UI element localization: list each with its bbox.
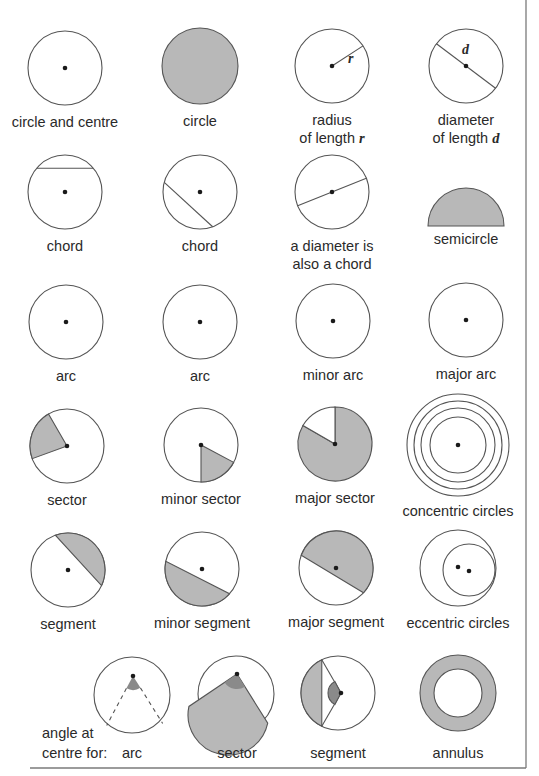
figure-major-sector: major sector bbox=[295, 407, 375, 506]
figure-label: concentric circles bbox=[402, 503, 513, 519]
figure-concentric-circles: concentric circles bbox=[402, 394, 513, 519]
segment-shape bbox=[301, 660, 322, 727]
centre-point bbox=[63, 66, 68, 71]
centre-point bbox=[456, 443, 461, 448]
centre-point bbox=[66, 568, 71, 573]
sector-shape bbox=[188, 674, 268, 755]
figure-label: of length r bbox=[299, 130, 365, 146]
figure-label: minor segment bbox=[154, 615, 250, 631]
figure-label: circle and centre bbox=[12, 114, 118, 130]
centre-point bbox=[330, 190, 335, 195]
figure-label: segment bbox=[310, 745, 366, 761]
figure-label: eccentric circles bbox=[406, 615, 509, 631]
centre-point bbox=[65, 444, 70, 449]
centre-point bbox=[235, 672, 240, 677]
figure-minor-segment: minor segment bbox=[154, 532, 250, 631]
diameter-symbol: d bbox=[462, 42, 470, 57]
figure-label: sector bbox=[47, 492, 87, 508]
figure-label: arc bbox=[190, 368, 210, 384]
figure-arc-2: arc bbox=[163, 285, 237, 384]
filled-circle bbox=[162, 28, 238, 104]
figure-annulus: annulus bbox=[420, 655, 496, 761]
label-symbol: r bbox=[359, 130, 365, 146]
centre-point bbox=[333, 442, 338, 447]
centre-point bbox=[330, 64, 335, 69]
figure-chord-1: chord bbox=[28, 155, 102, 254]
figure-angle-segment: segment bbox=[301, 656, 375, 761]
figure-label: radius bbox=[312, 112, 352, 128]
side-caption-line: angle at bbox=[42, 725, 94, 741]
figure-label: major sector bbox=[295, 490, 375, 506]
outer-centre-point bbox=[456, 565, 461, 570]
figure-major-arc: major arc bbox=[429, 283, 503, 382]
figure-label: annulus bbox=[433, 745, 484, 761]
figure-minor-sector: minor sector bbox=[161, 408, 241, 507]
centre-point bbox=[199, 443, 204, 448]
centre-point bbox=[198, 190, 203, 195]
circle-outline bbox=[94, 657, 170, 733]
figure-label: diameter bbox=[438, 112, 495, 128]
figure-sector: sector bbox=[30, 409, 104, 508]
figure-circle-and-centre: circle and centre bbox=[12, 31, 118, 130]
chord-line bbox=[164, 182, 212, 226]
figure-label: chord bbox=[47, 238, 83, 254]
figure-radius: rradiusof length r bbox=[295, 29, 369, 146]
figure-semicircle: semicircle bbox=[428, 188, 504, 247]
side-caption-line: centre for: bbox=[42, 745, 107, 761]
circle-terminology-diagram: circle and centrecirclerradiusof length … bbox=[0, 0, 539, 776]
sector-shape bbox=[201, 445, 234, 482]
angle-at-centre-caption: angle atcentre for: bbox=[42, 725, 107, 761]
centre-point bbox=[200, 567, 205, 572]
segment-shape bbox=[55, 533, 105, 586]
centre-point bbox=[339, 691, 344, 696]
figure-label: sector bbox=[217, 745, 257, 761]
centre-point bbox=[64, 320, 69, 325]
annulus-shape bbox=[420, 655, 496, 731]
figure-label: also a chord bbox=[293, 256, 372, 272]
figure-label: arc bbox=[122, 745, 142, 761]
inner-centre-point bbox=[467, 569, 472, 574]
figure-major-segment: major segment bbox=[288, 531, 384, 630]
centre-point bbox=[131, 674, 136, 679]
figure-label: semicircle bbox=[434, 231, 498, 247]
centre-point bbox=[63, 190, 68, 195]
figures-group: circle and centrecirclerradiusof length … bbox=[12, 28, 514, 761]
figure-diameter: ddiameterof length d bbox=[429, 29, 503, 146]
centre-point bbox=[464, 318, 469, 323]
figure-label: circle bbox=[183, 113, 217, 129]
centre-point bbox=[464, 64, 469, 69]
figure-label: a diameter is bbox=[290, 238, 373, 254]
figure-chord-2: chord bbox=[163, 155, 237, 254]
figure-label: arc bbox=[56, 368, 76, 384]
sector-shape bbox=[30, 414, 67, 459]
centre-point bbox=[334, 566, 339, 571]
figure-minor-arc: minor arc bbox=[296, 284, 370, 383]
major-segment-shape bbox=[301, 531, 373, 593]
minor-segment-shape bbox=[165, 561, 229, 606]
figure-segment: segment bbox=[31, 533, 105, 632]
figure-label: minor arc bbox=[303, 367, 363, 383]
radius-symbol: r bbox=[348, 51, 354, 66]
figure-arc-1: arc bbox=[29, 285, 103, 384]
centre-point bbox=[198, 320, 203, 325]
angle-ray-dashed bbox=[140, 688, 162, 724]
figure-circle: circle bbox=[162, 28, 238, 129]
centre-point bbox=[331, 319, 336, 324]
figure-diameter-chord: a diameter isalso a chord bbox=[290, 155, 373, 272]
figure-label: of length d bbox=[433, 130, 501, 146]
figure-label: major arc bbox=[436, 366, 496, 382]
figure-label: minor sector bbox=[161, 491, 241, 507]
figure-angle-sector: sector bbox=[188, 656, 274, 761]
figure-label: major segment bbox=[288, 614, 384, 630]
figure-eccentric-circles: eccentric circles bbox=[406, 530, 509, 631]
semicircle-shape bbox=[428, 188, 504, 226]
label-symbol: d bbox=[492, 130, 500, 146]
figure-label: segment bbox=[40, 616, 96, 632]
figure-label: chord bbox=[182, 238, 218, 254]
angle-ray-dashed bbox=[107, 688, 127, 725]
